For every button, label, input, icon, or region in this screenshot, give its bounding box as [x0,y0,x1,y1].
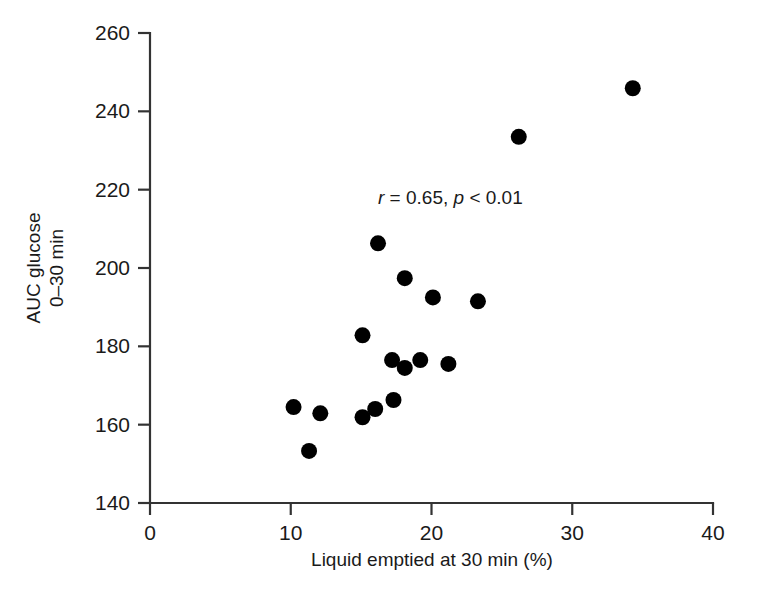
x-tick-label: 40 [701,521,724,544]
x-tick-label: 30 [561,521,584,544]
scatter-plot-figure: 140160180200220240260 010203040 r = 0.65… [0,0,758,596]
y-tick-label: 240 [95,99,130,122]
data-point [470,293,486,309]
annotation-run: p [453,187,465,208]
y-tick-label: 200 [95,256,130,279]
data-point [386,392,402,408]
annotation-run: < 0.01 [464,187,523,208]
x-axis-title: Liquid emptied at 30 min (%) [311,549,553,570]
data-point [370,235,386,251]
y-tick-label: 260 [95,21,130,44]
data-point [440,356,456,372]
x-tick-label: 0 [144,521,156,544]
y-tick-label: 180 [95,334,130,357]
data-point [286,399,302,415]
x-tick-label: 20 [420,521,443,544]
data-point [511,129,527,145]
data-point [425,289,441,305]
correlation-annotation: r = 0.65, p < 0.01 [378,187,523,208]
data-point [412,352,428,368]
y-axis-title-line2: 0–30 min [46,229,67,307]
y-tick-label: 220 [95,178,130,201]
plot-canvas: 140160180200220240260 010203040 r = 0.65… [0,0,758,596]
data-point [301,443,317,459]
data-point [367,401,383,417]
y-tick-label: 160 [95,413,130,436]
data-point [312,405,328,421]
data-point [397,270,413,286]
y-axis-title-line1: AUC glucose [23,213,44,324]
x-tick-label: 10 [279,521,302,544]
data-point [625,80,641,96]
data-point [397,360,413,376]
data-point [355,327,371,343]
annotation-run: = 0.65, [384,187,453,208]
y-tick-label: 140 [95,491,130,514]
